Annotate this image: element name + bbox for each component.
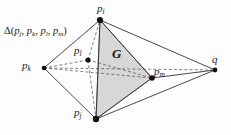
vertex-label-pm-sub: m [160,70,165,79]
vertex-label-pi-sub: i [103,7,105,16]
vertex-label-pj: pj [74,107,82,119]
vertex-label-pl-sub: l [80,49,82,58]
vertex-label-pk: pk [22,60,31,72]
vertex-dot-pl [85,57,90,62]
vertex-dot-pk [42,66,47,71]
vertex-label-q-base: q [212,53,218,65]
dashed-edge-pl-pi [88,20,100,60]
vertex-label-pk-sub: k [28,64,31,73]
vertex-label-pm: pm [154,66,165,78]
vertex-dot-q [213,68,218,73]
vertex-label-pl: pl [74,45,82,57]
vertex-dot-pj [93,116,99,122]
vertex-label-pi: pi [97,3,105,15]
vertex-label-pj-sub: j [80,111,82,120]
geometry-figure: Δ(pj, pk, pl, pm) pi pk pl pm pj q G [0,0,231,135]
vertex-label-q: q [212,54,218,66]
simplex-set-label: Δ(pj, pk, pl, pm) [4,26,67,38]
solid-edge-pk-pj [44,68,96,119]
dashed-edge-pk-pl [44,60,88,68]
figure-canvas [0,0,231,135]
set-separator-1: , [35,25,38,36]
region-label-G: G [112,47,121,60]
vertex-dot-pi [97,17,103,23]
set-separator-0: , [22,25,25,36]
delta-symbol: Δ [4,25,11,36]
set-separator-2: , [48,25,51,36]
close-paren: ) [63,25,67,36]
